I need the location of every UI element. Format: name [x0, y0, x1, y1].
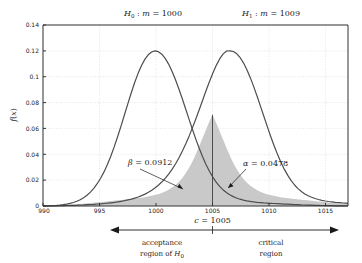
h1-value: 1009 [280, 9, 300, 18]
alpha-annotation-label: α = 0.0478 [243, 159, 288, 168]
h0-separator: : [134, 9, 142, 18]
x-tick-label: 1010 [261, 207, 276, 214]
x-tick-label: 990 [38, 207, 50, 214]
y-axis-label: f(x) [9, 108, 18, 123]
critical-value-label: c = 1005 [194, 216, 231, 225]
beta-equals: = [133, 158, 145, 167]
critical-value-number: 1005 [210, 216, 230, 225]
h0-value: 1000 [162, 9, 182, 18]
y-tick-label: 0.04 [26, 151, 40, 158]
x-tick-label: 1000 [148, 207, 163, 214]
h1-equals: = [268, 9, 280, 18]
beta-annotation-label: β = 0.0912 [127, 158, 172, 167]
h0-equals: = [150, 9, 162, 18]
y-tick-label: 0.06 [26, 125, 40, 132]
x-tick-label: 1015 [318, 207, 333, 214]
alpha-equals: = [248, 159, 260, 168]
x-tick-label: 995 [94, 207, 106, 214]
critical-region-line2: region [260, 250, 283, 258]
h1-separator: : [252, 9, 260, 18]
acceptance-region-line1: acceptance [142, 239, 182, 247]
y-tick-label: 0.12 [26, 47, 40, 54]
critical-region-line1: critical [259, 239, 285, 247]
y-tick-label: 0.08 [26, 99, 40, 106]
y-tick-label: 0.14 [26, 21, 40, 28]
acceptance-region-prefix: region of [140, 250, 174, 258]
svg-text:f(x): f(x) [9, 108, 18, 123]
critical-value-equals: = [199, 216, 211, 225]
chart-root: 0.14 0.12 0.1 0.08 0.06 0.04 0.02 0 990 … [0, 0, 362, 263]
alpha-value: 0.0478 [260, 159, 288, 168]
y-tick-label: 0.1 [29, 73, 39, 80]
acceptance-region-h-subscript: 0 [180, 253, 184, 259]
acceptance-region-line2: region of H0 [140, 250, 184, 259]
beta-value: 0.0912 [144, 158, 172, 167]
chart-background [0, 0, 362, 263]
x-tick-label: 1005 [205, 207, 220, 214]
statistical-hypothesis-test-chart: 0.14 0.12 0.1 0.08 0.06 0.04 0.02 0 990 … [0, 0, 362, 263]
y-tick-label: 0.02 [26, 176, 40, 183]
